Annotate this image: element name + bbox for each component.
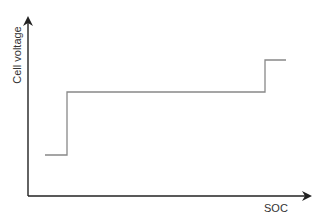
- chart-canvas: [0, 0, 329, 222]
- voltage-step-line: [45, 60, 286, 155]
- x-axis-label: SOC: [264, 202, 288, 214]
- y-axis-label: Cell voltage: [11, 26, 23, 83]
